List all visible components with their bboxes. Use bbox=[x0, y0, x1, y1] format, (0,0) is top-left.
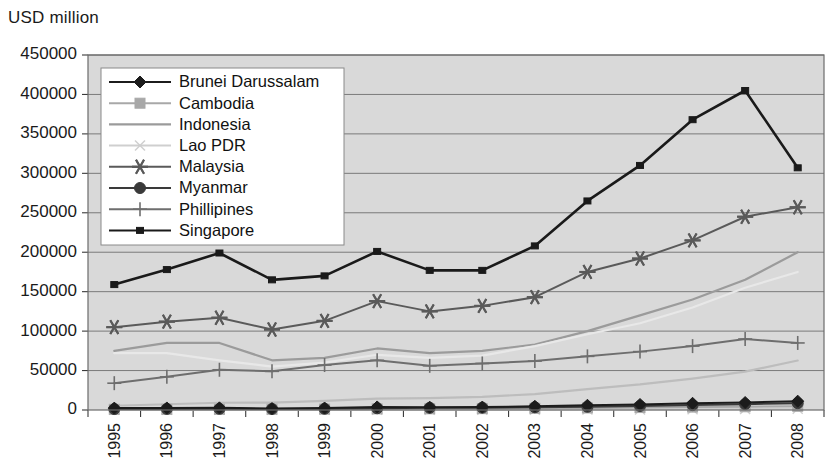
data-point-marker bbox=[135, 183, 146, 194]
x-axis-tick-label: 2001 bbox=[421, 423, 438, 459]
legend-item-label: Indonesia bbox=[179, 115, 251, 133]
y-axis-tick-label: 450000 bbox=[20, 44, 77, 63]
x-axis-tick-label: 2005 bbox=[632, 423, 649, 459]
data-point-marker bbox=[269, 277, 276, 283]
legend-item-label: Myanmar bbox=[179, 178, 248, 196]
legend-item-label: Malaysia bbox=[179, 157, 245, 175]
x-axis-tick-label: 2002 bbox=[474, 423, 491, 459]
y-axis-ticks bbox=[82, 55, 88, 410]
legend-item-label: Cambodia bbox=[179, 94, 255, 112]
data-point-marker bbox=[111, 282, 118, 288]
y-axis-tick-label: 50000 bbox=[30, 360, 77, 379]
x-axis-tick-label: 2003 bbox=[526, 423, 543, 459]
y-axis-tick-label: 350000 bbox=[20, 123, 77, 142]
y-axis-tick-label: 0 bbox=[68, 399, 77, 418]
y-axis-tick-labels: 0500001000001500002000002500003000003500… bbox=[20, 44, 77, 418]
data-point-marker bbox=[742, 88, 749, 94]
data-point-marker bbox=[163, 267, 170, 273]
data-point-marker bbox=[137, 227, 144, 233]
legend-item-label: Lao PDR bbox=[179, 136, 246, 154]
data-point-marker bbox=[426, 267, 433, 273]
x-axis-tick-label: 1998 bbox=[264, 423, 281, 459]
legend-item-label: Phillipines bbox=[179, 200, 253, 218]
data-point-marker bbox=[689, 117, 696, 123]
data-point-marker bbox=[531, 243, 538, 249]
data-point-marker bbox=[216, 250, 223, 256]
line-chart: 0500001000001500002000002500003000003500… bbox=[0, 0, 828, 472]
y-axis-tick-label: 400000 bbox=[20, 84, 77, 103]
data-point-marker bbox=[584, 198, 591, 204]
x-axis-tick-label: 2004 bbox=[579, 423, 596, 459]
y-axis-tick-label: 150000 bbox=[20, 281, 77, 300]
x-axis-tick-label: 2008 bbox=[789, 423, 806, 459]
x-axis-tick-label: 1996 bbox=[158, 423, 175, 459]
plot-area-wrapper: 0500001000001500002000002500003000003500… bbox=[0, 0, 828, 472]
data-point-marker bbox=[637, 162, 644, 168]
chart-container: USD million 0500001000001500002000002500… bbox=[0, 0, 828, 472]
data-point-marker bbox=[794, 165, 801, 171]
data-point-marker bbox=[135, 98, 145, 108]
y-axis-tick-label: 200000 bbox=[20, 242, 77, 261]
x-axis-tick-label: 2006 bbox=[684, 423, 701, 459]
x-axis-tick-labels: 1995199619971998199920002001200220032004… bbox=[106, 423, 806, 459]
x-axis-tick-label: 2000 bbox=[369, 423, 386, 459]
data-point-marker bbox=[321, 273, 328, 279]
legend-item-label: Brunei Darussalam bbox=[179, 72, 319, 90]
x-axis-tick-label: 1999 bbox=[316, 423, 333, 459]
x-axis-tick-label: 1995 bbox=[106, 423, 123, 459]
data-point-marker bbox=[479, 267, 486, 273]
x-axis-tick-label: 1997 bbox=[211, 423, 228, 459]
x-axis-ticks bbox=[88, 410, 824, 417]
x-axis-tick-label: 2007 bbox=[737, 423, 754, 459]
y-axis-tick-label: 100000 bbox=[20, 321, 77, 340]
y-axis-tick-label: 250000 bbox=[20, 202, 77, 221]
data-point-marker bbox=[374, 248, 381, 254]
y-axis-tick-label: 300000 bbox=[20, 163, 77, 182]
legend-item-label: Singapore bbox=[179, 221, 254, 239]
